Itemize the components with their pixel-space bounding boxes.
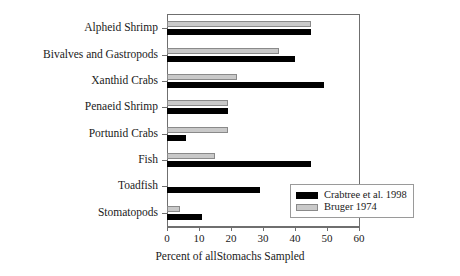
bar[interactable] <box>167 21 311 27</box>
bar-chart: Alpheid ShrimpBivalves and GastropodsXan… <box>0 0 460 276</box>
category-label: Xanthid Crabs <box>91 75 158 87</box>
legend-label: Crabtree et al. 1998 <box>324 190 407 201</box>
category-row: Bivalves and Gastropods <box>167 41 359 67</box>
category-row: Xanthid Crabs <box>167 68 359 94</box>
category-label: Alpheid Shrimp <box>84 22 158 34</box>
category-label: Toadfish <box>118 181 158 193</box>
bar[interactable] <box>167 82 324 88</box>
bar[interactable] <box>167 48 279 54</box>
bar[interactable] <box>167 153 215 159</box>
bar[interactable] <box>167 108 228 114</box>
bar-slot <box>167 74 359 80</box>
bar[interactable] <box>167 29 311 35</box>
bar[interactable] <box>167 127 228 133</box>
x-tick-label: 20 <box>226 233 237 244</box>
legend-label: Bruger 1974 <box>324 202 377 213</box>
bar-slot <box>167 153 359 159</box>
x-tick <box>167 227 168 231</box>
bar[interactable] <box>167 135 186 141</box>
x-axis: 0102030405060 <box>167 227 359 228</box>
legend-swatch <box>296 192 318 199</box>
bar-slot <box>167 161 359 167</box>
category-row: Portunid Crabs <box>167 121 359 147</box>
bar-slot <box>167 108 359 114</box>
x-axis-title: Percent of allStomachs Sampled <box>0 250 460 262</box>
x-tick-label: 10 <box>194 233 205 244</box>
bar-slot <box>167 100 359 106</box>
category-label: Stomatopods <box>98 207 158 219</box>
category-label: Penaeid Shrimp <box>85 102 158 114</box>
x-tick-label: 0 <box>164 233 170 244</box>
x-tick-label: 40 <box>290 233 301 244</box>
bar-slot <box>167 82 359 88</box>
bar[interactable] <box>167 74 237 80</box>
legend-item[interactable]: Bruger 1974 <box>296 201 408 213</box>
chart-legend: Crabtree et al. 1998Bruger 1974 <box>290 184 414 218</box>
x-tick <box>327 227 328 231</box>
bar-slot <box>167 29 359 35</box>
bar[interactable] <box>167 214 202 220</box>
bar-slot <box>167 135 359 141</box>
bar[interactable] <box>167 206 180 212</box>
category-label: Portunid Crabs <box>89 128 158 140</box>
x-tick <box>199 227 200 231</box>
category-label: Bivalves and Gastropods <box>43 49 158 61</box>
x-tick <box>359 227 360 231</box>
category-row: Penaeid Shrimp <box>167 94 359 120</box>
bar-slot <box>167 127 359 133</box>
bar-slot <box>167 56 359 62</box>
bar[interactable] <box>167 187 260 193</box>
legend-swatch <box>296 204 318 211</box>
x-tick-label: 30 <box>258 233 269 244</box>
x-tick-label: 50 <box>322 233 333 244</box>
bar-slot <box>167 21 359 27</box>
x-tick <box>295 227 296 231</box>
bar[interactable] <box>167 100 228 106</box>
category-row: Alpheid Shrimp <box>167 15 359 41</box>
bar[interactable] <box>167 56 295 62</box>
bar-slot <box>167 48 359 54</box>
legend-item[interactable]: Crabtree et al. 1998 <box>296 189 408 201</box>
x-tick <box>263 227 264 231</box>
x-tick <box>231 227 232 231</box>
x-tick-label: 60 <box>354 233 365 244</box>
category-row: Fish <box>167 147 359 173</box>
bar[interactable] <box>167 161 311 167</box>
category-label: Fish <box>138 154 158 166</box>
